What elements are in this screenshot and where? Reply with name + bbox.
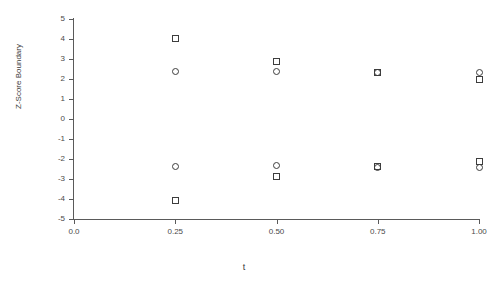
y-axis-tick-label: -3 [45, 175, 65, 183]
data-point-circle [374, 164, 381, 171]
x-axis-tick-label: 1.00 [459, 228, 488, 236]
data-point-circle [476, 164, 483, 171]
y-axis-tick-label: 5 [45, 15, 65, 23]
data-point-square [172, 197, 179, 204]
x-axis-title: t [0, 262, 488, 272]
data-point-circle [374, 69, 381, 76]
x-axis-tick [378, 220, 379, 224]
x-axis-tick-label: 0.25 [155, 228, 195, 236]
x-axis-tick-label: 0.75 [358, 228, 398, 236]
y-axis-tick [69, 79, 73, 80]
y-axis-title: Z-Score Boundary [14, 27, 23, 127]
y-axis-tick-label: -2 [45, 155, 65, 163]
y-axis-tick-label: 0 [45, 115, 65, 123]
data-point-circle [172, 68, 179, 75]
scatter-chart: 543210-1-2-3-4-5 0.00.250.500.751.00 Z-S… [0, 0, 488, 298]
x-axis-tick-label: 0.50 [257, 228, 297, 236]
data-point-square [476, 76, 483, 83]
y-axis-tick-label: 2 [45, 75, 65, 83]
y-axis-tick [69, 59, 73, 60]
data-point-square [273, 58, 280, 65]
y-axis-tick-label: 1 [45, 95, 65, 103]
y-axis-line [73, 18, 74, 220]
y-axis-tick [69, 39, 73, 40]
y-axis-tick-label: -1 [45, 135, 65, 143]
y-axis-tick [69, 119, 73, 120]
y-axis-tick [69, 219, 73, 220]
data-point-square [172, 35, 179, 42]
data-point-circle [273, 68, 280, 75]
x-axis-tick [175, 220, 176, 224]
x-axis-tick [277, 220, 278, 224]
y-axis-tick [69, 159, 73, 160]
data-point-circle [273, 162, 280, 169]
y-axis-tick-label: -4 [45, 195, 65, 203]
y-axis-tick [69, 19, 73, 20]
x-axis-tick [479, 220, 480, 224]
data-point-square [273, 173, 280, 180]
y-axis-tick [69, 99, 73, 100]
x-axis-tick-label: 0.0 [54, 228, 94, 236]
y-axis-tick-label: 3 [45, 55, 65, 63]
y-axis-tick [69, 139, 73, 140]
data-point-circle [172, 163, 179, 170]
y-axis-tick-label: 4 [45, 35, 65, 43]
y-axis-tick [69, 199, 73, 200]
y-axis-tick-label: -5 [45, 215, 65, 223]
y-axis-tick [69, 179, 73, 180]
x-axis-tick [74, 220, 75, 224]
